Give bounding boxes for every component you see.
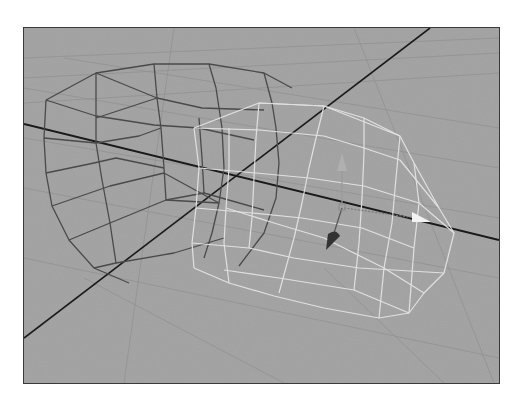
3d-viewport[interactable]	[23, 27, 500, 384]
